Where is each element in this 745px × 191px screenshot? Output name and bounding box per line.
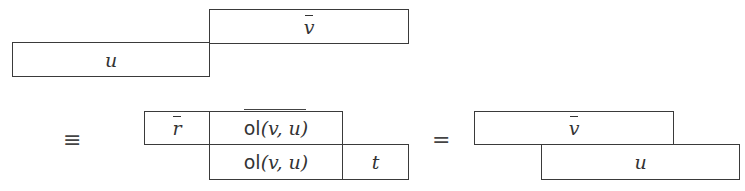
box-t: t [342,144,409,180]
box-ol-overlined: ol(v, u) [209,111,343,145]
equiv-sign: ≡ [63,127,81,152]
box-ol: ol(v, u) [209,144,343,180]
box-rbar: r [144,111,210,145]
box-u-top: u [12,42,210,77]
label-vbar: v [304,16,315,38]
label-rbar: r [172,117,181,139]
label-t: t [372,151,380,173]
label-ol-vu-overlined: ol(v, u) [244,117,309,139]
label-ol-vu: ol(v, u) [244,151,309,173]
equals-sign: = [432,127,450,152]
box-u-right: u [541,144,740,180]
box-vbar-top: v [209,9,409,44]
label-u-right: u [634,151,646,173]
box-vbar-right: v [474,111,674,145]
label-u: u [105,49,117,71]
label-vbar-right: v [569,117,580,139]
